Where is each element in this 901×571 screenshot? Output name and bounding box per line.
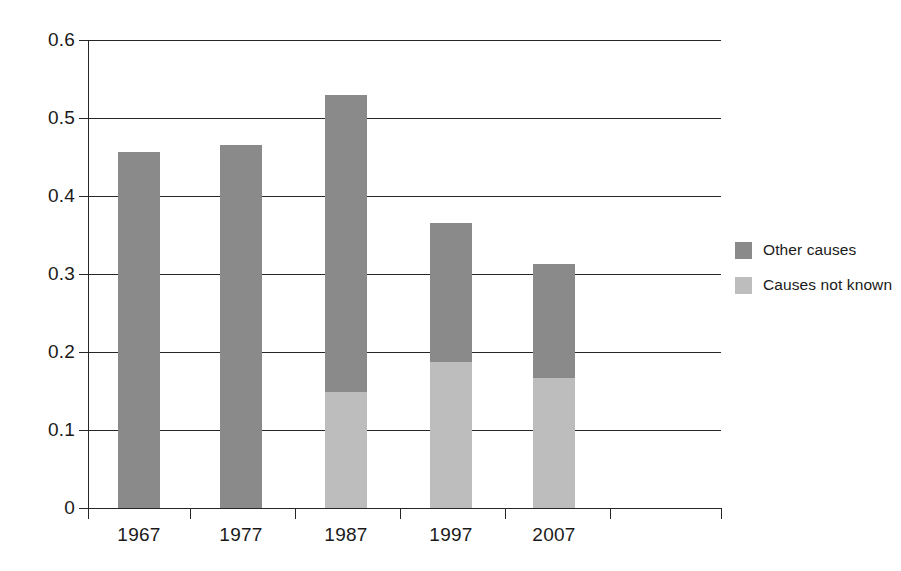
x-tick-mark-5 bbox=[610, 508, 611, 519]
y-tick-mark-0.2 bbox=[79, 352, 88, 353]
x-tick-mark-0 bbox=[88, 508, 89, 519]
x-tick-mark-6 bbox=[721, 508, 722, 519]
x-tick-label-1997: 1997 bbox=[429, 524, 472, 546]
y-tick-mark-0.4 bbox=[79, 196, 88, 197]
x-axis: 19671977198719972007 bbox=[88, 508, 721, 570]
x-tick-mark-1 bbox=[190, 508, 191, 519]
bar-segment-causes-not-known-1987[interactable] bbox=[325, 392, 367, 508]
x-tick-mark-3 bbox=[400, 508, 401, 519]
bar-1967[interactable] bbox=[118, 152, 160, 508]
y-tick-label-0.2: 0.2 bbox=[48, 341, 75, 363]
legend-label-causes-not-known: Causes not known bbox=[763, 276, 892, 294]
x-tick-label-1967: 1967 bbox=[117, 524, 160, 546]
x-tick-mark-2 bbox=[295, 508, 296, 519]
bar-1987[interactable] bbox=[325, 95, 367, 508]
y-tick-label-0.4: 0.4 bbox=[48, 185, 75, 207]
legend-swatch-causes-not-known bbox=[735, 277, 752, 294]
bar-segment-causes-not-known-1997[interactable] bbox=[430, 362, 472, 508]
bars-layer bbox=[88, 40, 721, 508]
legend-item-causes-not-known[interactable]: Causes not known bbox=[735, 276, 901, 294]
plot-area: 00.10.20.30.40.50.6 bbox=[88, 40, 721, 508]
bar-segment-other-causes-1987[interactable] bbox=[325, 95, 367, 392]
x-tick-label-1987: 1987 bbox=[324, 524, 367, 546]
bar-2007[interactable] bbox=[533, 264, 575, 508]
y-tick-mark-0.3 bbox=[79, 274, 88, 275]
y-tick-mark-0.5 bbox=[79, 118, 88, 119]
bar-segment-causes-not-known-2007[interactable] bbox=[533, 378, 575, 508]
legend-item-other-causes[interactable]: Other causes bbox=[735, 241, 901, 259]
x-tick-label-2007: 2007 bbox=[532, 524, 575, 546]
x-tick-mark-4 bbox=[505, 508, 506, 519]
y-tick-label-0: 0 bbox=[64, 497, 75, 519]
legend-label-other-causes: Other causes bbox=[763, 241, 856, 259]
y-tick-mark-0.1 bbox=[79, 430, 88, 431]
x-tick-label-1977: 1977 bbox=[219, 524, 262, 546]
bar-1997[interactable] bbox=[430, 223, 472, 508]
chart-legend: Other causes Causes not known bbox=[735, 241, 901, 311]
y-tick-label-0.6: 0.6 bbox=[48, 29, 75, 51]
legend-swatch-other-causes bbox=[735, 242, 752, 259]
y-tick-label-0.3: 0.3 bbox=[48, 263, 75, 285]
y-tick-label-0.5: 0.5 bbox=[48, 107, 75, 129]
chart-figure: 00.10.20.30.40.50.6 19671977198719972007… bbox=[0, 0, 901, 571]
bar-segment-other-causes-1967[interactable] bbox=[118, 152, 160, 508]
y-tick-mark-0 bbox=[79, 508, 88, 509]
y-tick-label-0.1: 0.1 bbox=[48, 419, 75, 441]
bar-segment-other-causes-1977[interactable] bbox=[220, 145, 262, 508]
bar-1977[interactable] bbox=[220, 145, 262, 508]
y-tick-mark-0.6 bbox=[79, 40, 88, 41]
bar-segment-other-causes-1997[interactable] bbox=[430, 223, 472, 363]
bar-segment-other-causes-2007[interactable] bbox=[533, 264, 575, 378]
